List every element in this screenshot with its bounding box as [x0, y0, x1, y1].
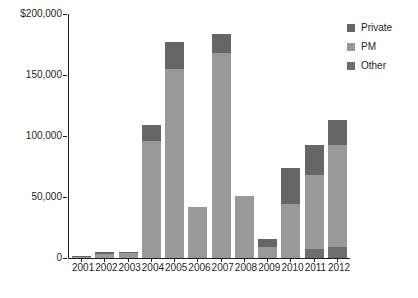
bar-segment-other[interactable] — [305, 249, 324, 258]
legend-item[interactable]: PM — [347, 37, 417, 56]
bar-column[interactable] — [95, 14, 114, 258]
bar-segment-pm[interactable] — [165, 69, 184, 258]
bar-segment-other[interactable] — [328, 247, 347, 258]
x-tick-label: 2012 — [328, 262, 347, 274]
bar-column[interactable] — [142, 14, 161, 258]
y-tick-mark — [63, 258, 67, 259]
bar-column[interactable] — [281, 14, 300, 258]
x-tick-label: 2006 — [188, 262, 207, 274]
legend-label: Other — [361, 61, 386, 71]
x-tick-label: 2010 — [281, 262, 300, 274]
bar-column[interactable] — [328, 14, 347, 258]
bar-segment-pm[interactable] — [212, 53, 231, 258]
bar-group — [69, 14, 350, 258]
x-tick-label: 2011 — [305, 262, 324, 274]
y-tick-label: $200,000 — [0, 9, 62, 19]
bar-segment-pm[interactable] — [281, 204, 300, 258]
legend-swatch-icon — [347, 43, 355, 51]
legend-swatch-icon — [347, 24, 355, 32]
bar-segment-private[interactable] — [328, 120, 347, 144]
bar-column[interactable] — [165, 14, 184, 258]
y-tick-label: 50,000 — [0, 192, 62, 202]
x-axis-labels: 2001200220032004200520062007200820092010… — [69, 262, 350, 274]
x-tick-label: 2002 — [95, 262, 114, 274]
x-tick-label: 2001 — [72, 262, 91, 274]
bar-segment-pm[interactable] — [258, 247, 277, 258]
y-tick-mark — [63, 14, 67, 15]
y-tick-mark — [63, 197, 67, 198]
bar-column[interactable] — [235, 14, 254, 258]
bar-column[interactable] — [258, 14, 277, 258]
bar-segment-pm[interactable] — [328, 145, 347, 247]
legend-label: PM — [361, 42, 376, 52]
bar-column[interactable] — [212, 14, 231, 258]
bar-segment-pm[interactable] — [188, 207, 207, 258]
x-tick-label: 2003 — [119, 262, 138, 274]
bar-column[interactable] — [188, 14, 207, 258]
bar-segment-pm[interactable] — [119, 253, 138, 258]
y-tick-mark — [63, 75, 67, 76]
bar-segment-pm[interactable] — [95, 254, 114, 258]
bar-segment-private[interactable] — [142, 125, 161, 141]
x-tick-label: 2007 — [212, 262, 231, 274]
bar-segment-pm[interactable] — [72, 257, 91, 258]
bar-segment-pm[interactable] — [235, 196, 254, 258]
bar-column[interactable] — [72, 14, 91, 258]
bar-segment-private[interactable] — [281, 168, 300, 205]
y-axis-ticks: $200,000150,000100,00050,0000 — [0, 0, 62, 258]
plot-area — [68, 14, 350, 258]
y-tick-label: 100,000 — [0, 131, 62, 141]
legend-item[interactable]: Private — [347, 18, 417, 37]
bar-segment-private[interactable] — [258, 239, 277, 247]
chart-figure: Monetized benefit ($ millions) $200,0001… — [0, 0, 418, 298]
y-tick-mark — [63, 136, 67, 137]
legend-swatch-icon — [347, 62, 355, 70]
bar-segment-pm[interactable] — [305, 175, 324, 249]
bar-column[interactable] — [119, 14, 138, 258]
legend-item[interactable]: Other — [347, 56, 417, 75]
y-tick-label: 150,000 — [0, 70, 62, 80]
bar-segment-private[interactable] — [305, 145, 324, 176]
bar-segment-pm[interactable] — [142, 141, 161, 258]
x-tick-label: 2004 — [142, 262, 161, 274]
legend: PrivatePMOther — [347, 18, 417, 75]
x-tick-label: 2005 — [165, 262, 184, 274]
legend-label: Private — [361, 23, 392, 33]
bar-segment-private[interactable] — [212, 34, 231, 54]
x-tick-label: 2008 — [235, 262, 254, 274]
bar-column[interactable] — [305, 14, 324, 258]
x-tick-label: 2009 — [258, 262, 277, 274]
bar-segment-private[interactable] — [165, 42, 184, 69]
y-tick-label: 0 — [0, 253, 62, 263]
